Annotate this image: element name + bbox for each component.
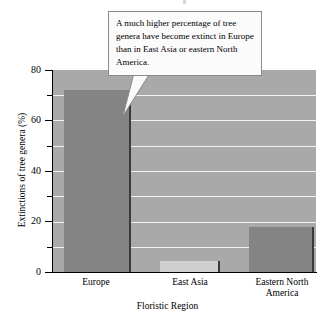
bar-eastern-north-america bbox=[249, 227, 314, 272]
y-tick-0 bbox=[45, 272, 52, 273]
y-tick-50 bbox=[47, 146, 52, 147]
bar-europe bbox=[64, 90, 131, 272]
x-tick-label-east-asia: East Asia bbox=[148, 277, 232, 288]
chart-figure: 80 60 40 20 0 Extinctions of tree genera… bbox=[0, 0, 335, 323]
y-tick-60 bbox=[45, 120, 52, 121]
y-tick-label-80: 80 bbox=[31, 65, 41, 75]
x-tick-label-eastern-north-america: Eastern North America bbox=[239, 277, 325, 299]
x-tick-label-east-asia-line1: East Asia bbox=[172, 277, 208, 287]
top-edge-artifact bbox=[183, 0, 186, 4]
y-axis-title: Extinctions of tree genera (%) bbox=[17, 75, 27, 265]
y-axis-line bbox=[52, 70, 53, 273]
x-axis-line bbox=[52, 272, 317, 273]
annotation-callout-text: A much higher percentage of tree genera … bbox=[116, 18, 254, 67]
x-tick-label-europe-line1: Europe bbox=[82, 277, 109, 287]
annotation-callout: A much higher percentage of tree genera … bbox=[108, 11, 262, 76]
y-tick-30 bbox=[47, 196, 52, 197]
y-tick-70 bbox=[47, 95, 52, 96]
x-tick-label-ena-line1: Eastern North bbox=[255, 277, 308, 287]
y-tick-80 bbox=[45, 70, 52, 71]
bar-east-asia bbox=[160, 261, 220, 272]
x-tick-label-europe: Europe bbox=[54, 277, 138, 288]
y-tick-label-0: 0 bbox=[36, 267, 41, 277]
y-tick-10 bbox=[47, 247, 52, 248]
y-tick-label-60: 60 bbox=[31, 115, 41, 125]
y-tick-40 bbox=[45, 171, 52, 172]
y-tick-label-20: 20 bbox=[31, 216, 41, 226]
y-tick-label-40: 40 bbox=[31, 166, 41, 176]
x-axis-title: Floristic Region bbox=[0, 301, 335, 311]
y-tick-20 bbox=[45, 221, 52, 222]
plot-area bbox=[52, 70, 316, 272]
x-tick-label-ena-line2: America bbox=[266, 288, 299, 298]
